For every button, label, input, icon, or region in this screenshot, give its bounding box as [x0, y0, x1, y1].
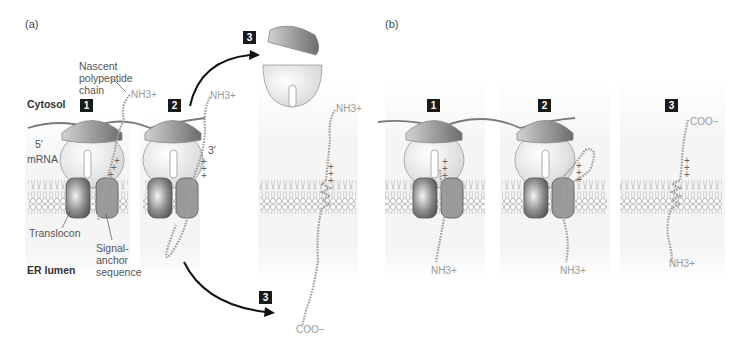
step-badge-a3-lower: 3 — [259, 291, 272, 304]
five-prime-label: 5′ — [35, 138, 43, 150]
positive-charges-b1: + + + — [442, 158, 448, 179]
step-badge-b1: 1 — [427, 99, 440, 112]
n-terminus-a2: NH3+ — [210, 90, 236, 101]
panel-a-label: (a) — [25, 18, 38, 30]
cytosol-label: Cytosol — [27, 98, 66, 110]
n-terminus-a3: NH3+ — [336, 103, 362, 114]
step-badge-a1: 1 — [80, 99, 93, 112]
positive-charges-b2: + + + — [576, 162, 582, 183]
n-terminus-a1: NH3+ — [131, 89, 157, 100]
positive-charges-a3: + + + — [328, 163, 334, 184]
positive-charges-a1: + + + — [114, 157, 120, 178]
c-terminus-a3: COO− — [296, 324, 325, 335]
panel-b-label: (b) — [385, 18, 398, 30]
er-lumen-label: ER lumen — [27, 264, 75, 276]
three-prime-label: 3′ — [208, 144, 216, 156]
positive-charges-a2: + + + — [201, 158, 207, 179]
step-badge-b3: 3 — [665, 99, 678, 112]
n-terminus-b2: NH3+ — [560, 265, 586, 276]
step-badge-b2: 2 — [538, 99, 551, 112]
mrna-label: mRNA — [27, 153, 58, 165]
signal-anchor-label: Signal- anchor sequence — [96, 242, 142, 278]
translocon-label: Translocon — [29, 227, 81, 239]
step-badge-a2: 2 — [168, 99, 181, 112]
ribosome-a3-dissociated — [263, 26, 322, 107]
ribosome-a2 — [143, 121, 203, 189]
c-terminus-b3: COO− — [690, 116, 719, 127]
n-terminus-b1: NH3+ — [431, 265, 457, 276]
n-terminus-b3: NH3+ — [669, 258, 695, 269]
positive-charges-b3: + + + — [684, 157, 690, 178]
nascent-chain-label: Nascent polypeptide chain — [79, 60, 133, 96]
step-badge-a3-upper: 3 — [243, 31, 256, 44]
